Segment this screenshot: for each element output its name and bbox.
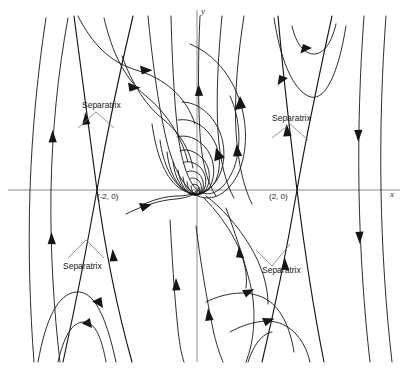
arrowhead-far-right-upper <box>354 130 362 142</box>
trajectory-lower-mid-1 <box>170 220 184 362</box>
arrowhead-upper-right-u-2 <box>278 75 288 85</box>
arrowhead-spiral-inflow-left <box>139 203 152 212</box>
x-axis-label: x <box>389 189 394 199</box>
phase-portrait-canvas: y x (-2, 0) (2, 0) Separatrix Separatrix… <box>0 0 411 373</box>
axes-group <box>8 10 400 362</box>
separatrix-right-shallow <box>262 16 332 362</box>
lower-middle-trajectories <box>170 208 254 362</box>
separatrix-right-steep <box>278 16 324 362</box>
phase-portrait-figure: y x (-2, 0) (2, 0) Separatrix Separatrix… <box>0 0 411 373</box>
trajectory-lower-mid-2 <box>196 226 223 362</box>
separatrix-label-upper-right: Separatrix <box>272 113 311 123</box>
trajectory-lower-right-1 <box>206 293 294 352</box>
arrowhead-far-left-lower <box>48 232 56 244</box>
separatrix-label-lower-left: Separatrix <box>63 261 102 271</box>
separatrix-right-group <box>262 16 332 362</box>
equilibrium-label-right: (2, 0) <box>269 192 288 201</box>
spiral-outflow-right-1 <box>204 198 247 288</box>
separatrix-label-upper-left: Separatrix <box>82 100 121 110</box>
separatrix-label-lower-right: Separatrix <box>262 265 301 275</box>
y-axis-label: y <box>200 6 205 16</box>
spiral-orbit-4 <box>160 120 219 194</box>
equilibrium-label-left: (-2, 0) <box>97 192 119 201</box>
arrowhead-far-left-upper <box>49 130 57 143</box>
spiral-outflow-right-2 <box>206 196 268 304</box>
arrowhead-spiral-outflow-right <box>236 246 244 258</box>
spiral-inflow-left-2 <box>126 190 199 214</box>
upper-right-u-trajectories <box>274 16 392 362</box>
arrowhead-far-right-lower <box>355 232 363 244</box>
separatrix-left-steep <box>74 16 132 362</box>
lower-right-trajectories <box>206 289 310 362</box>
separatrix-leader-group <box>68 112 308 266</box>
trajectory-upper-mid-2 <box>217 16 234 198</box>
arrowhead-lower-right-2 <box>262 318 274 326</box>
arrowhead-upper-mid-3 <box>233 144 242 157</box>
arrowhead-lower-left-arc-2 <box>82 318 92 328</box>
lower-left-arc-trajectories <box>38 292 116 362</box>
inflow-upper-left-trajectories <box>78 16 195 168</box>
trajectory-lower-left-arc-2 <box>58 322 106 362</box>
trajectory-upper-mid-3 <box>235 16 252 204</box>
arrowhead-spiral-upper-right <box>235 96 246 110</box>
trajectory-far-right-1 <box>359 16 370 362</box>
trajectory-lower-left-arc-1 <box>38 292 116 362</box>
arrowhead-upper-mid-1 <box>195 84 203 96</box>
arrowhead-sep-left-steep-lower <box>110 249 118 262</box>
